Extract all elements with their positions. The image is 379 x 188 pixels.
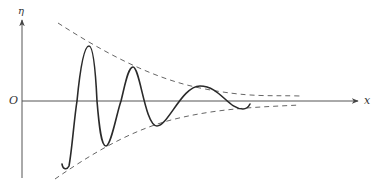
origin-label: O: [9, 95, 18, 106]
y-axis-label: η: [18, 6, 24, 16]
oscillation-curve: [62, 46, 250, 169]
damped-oscillation-figure: [0, 0, 379, 188]
lower-envelope: [55, 105, 300, 179]
x-axis-label: x: [364, 95, 370, 106]
